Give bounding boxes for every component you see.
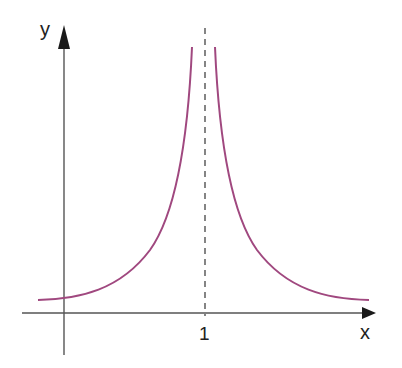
graph-figure: y x 1 [0,0,402,368]
graph-canvas: y x 1 [0,0,402,368]
y-axis-label: y [40,18,50,40]
x-axis-label: x [360,321,370,343]
curve-left-branch [38,47,192,300]
curve-right-branch [215,47,369,300]
x-tick-label-1: 1 [199,323,210,344]
y-axis-arrow-icon [58,25,70,49]
x-axis-arrow-icon [362,307,376,319]
